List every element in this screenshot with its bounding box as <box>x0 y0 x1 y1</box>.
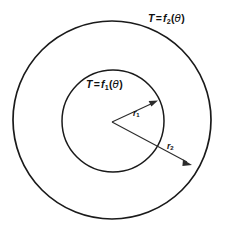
outer-label-subscript: 2 <box>167 17 171 26</box>
inner-label-subscript: 1 <box>105 83 109 92</box>
outer-radius-arrow <box>112 122 192 166</box>
outer-label-equals: = <box>155 12 163 24</box>
outer-radius-arrowhead <box>182 160 192 166</box>
outer-radius-label: r2 <box>167 142 174 151</box>
annulus-figure: T=f2(θ) T=f1(θ) r1 r2 <box>0 0 228 232</box>
outer-boundary-condition-label: T=f2(θ) <box>148 13 185 24</box>
inner-label-close-paren: ) <box>119 78 123 90</box>
inner-label-variable: T <box>86 78 93 90</box>
inner-radius-subscript: 1 <box>136 112 139 118</box>
outer-circle <box>13 21 211 219</box>
inner-radius-arrowhead <box>149 101 158 107</box>
inner-radius-label: r1 <box>133 109 140 118</box>
figure-canvas <box>0 0 228 232</box>
inner-boundary-condition-label: T=f1(θ) <box>86 79 123 90</box>
outer-label-variable: T <box>148 12 155 24</box>
inner-label-equals: = <box>93 78 101 90</box>
outer-radius-subscript: 2 <box>170 145 173 151</box>
outer-label-close-paren: ) <box>181 12 185 24</box>
